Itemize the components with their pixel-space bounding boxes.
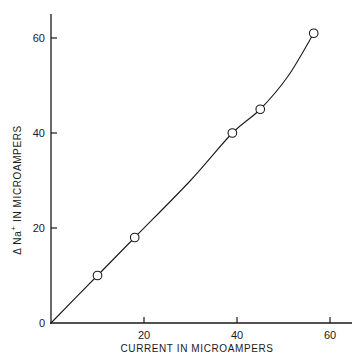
data-point	[93, 271, 102, 280]
y-tick-label: 60	[33, 32, 45, 44]
data-point	[228, 129, 237, 138]
y-axis-label: Δ Na+ IN MICROAMPERS	[9, 125, 23, 255]
x-tick-label: 20	[138, 329, 150, 341]
x-axis-label: CURRENT IN MICROAMPERS	[120, 343, 273, 354]
y-axis-label-prefix: Δ Na	[12, 231, 23, 255]
fit-curve	[51, 33, 314, 323]
y-ticks: 0204060	[33, 32, 57, 329]
x-tick-label: 60	[324, 329, 336, 341]
y-tick-label: 20	[33, 222, 45, 234]
y-tick-label: 40	[33, 127, 45, 139]
data-point	[130, 233, 139, 242]
y-tick-label: 0	[39, 317, 45, 329]
y-axis-label-suffix: IN MICROAMPERS	[12, 125, 23, 225]
data-point	[256, 105, 265, 114]
chart: 204060 0204060 CURRENT IN MICROAMPERS Δ …	[0, 0, 364, 362]
data-points	[93, 29, 318, 280]
data-point	[309, 29, 318, 38]
x-ticks: 204060	[138, 317, 336, 341]
x-tick-label: 40	[231, 329, 243, 341]
